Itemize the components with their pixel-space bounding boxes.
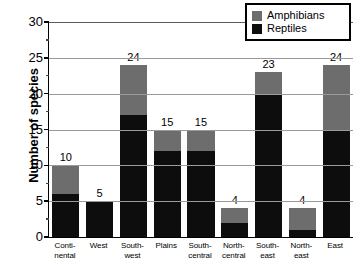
y-axis-minor-tick: [46, 147, 49, 148]
legend-label-amphibians: Amphibians: [267, 10, 324, 21]
x-axis-tick-label-line: North-: [284, 241, 318, 251]
plot-area: 105241515423424: [48, 22, 353, 238]
x-axis-tick-label: West: [82, 241, 116, 251]
y-axis-minor-tick: [46, 183, 49, 184]
bar-segment-reptiles: [289, 230, 316, 237]
bar-segment-amphibians: [221, 208, 248, 222]
legend-item-reptiles: Reptiles: [252, 22, 344, 35]
y-axis-tick: [44, 129, 49, 130]
legend-label-reptiles: Reptiles: [267, 23, 307, 34]
y-axis-minor-tick: [46, 39, 49, 40]
bar-value-label: 5: [97, 188, 103, 199]
y-axis-tick: [44, 57, 49, 58]
y-axis-tick-label: 30: [0, 17, 43, 27]
bar-value-label: 15: [195, 117, 207, 128]
bar-segment-reptiles: [86, 201, 113, 237]
y-axis-tick: [44, 236, 49, 237]
y-axis-minor-tick: [46, 75, 49, 76]
y-axis-tick-label: 10: [0, 160, 43, 170]
x-axis-tick-label-line: west: [116, 251, 150, 261]
x-axis-tick-label-line: central: [183, 251, 217, 261]
bar-segment-reptiles: [154, 151, 181, 237]
bar-segment-amphibians: [289, 208, 316, 230]
gridline: [49, 201, 353, 202]
x-axis-tick-label: North-east: [284, 241, 318, 261]
bar-segment-amphibians: [323, 65, 350, 130]
x-axis-tick-label-line: South-: [183, 241, 217, 251]
bar-segment-amphibians: [187, 130, 214, 152]
y-axis-tick: [44, 165, 49, 166]
x-axis-tick-label-line: North-: [217, 241, 251, 251]
bar-segment-amphibians: [154, 130, 181, 152]
x-axis-tick-label-line: nental: [48, 251, 82, 261]
x-axis-tick-label-line: West: [82, 241, 116, 251]
y-axis-tick-label: 25: [0, 53, 43, 63]
x-axis-tick-label: South-west: [116, 241, 150, 261]
x-axis-tick-label: South-east: [251, 241, 285, 261]
bar-value-label: 15: [161, 117, 173, 128]
x-axis-tick-label: Plains: [149, 241, 183, 251]
x-axis-tick-label-line: South-: [116, 241, 150, 251]
bar-segment-amphibians: [120, 65, 147, 115]
y-axis-minor-tick: [46, 111, 49, 112]
y-axis-tick-label: 15: [0, 125, 43, 135]
x-axis-tick-label: South-central: [183, 241, 217, 261]
gridline: [49, 58, 353, 59]
y-axis-tick-label: 20: [0, 89, 43, 99]
bar-segment-reptiles: [323, 130, 350, 238]
y-axis-minor-tick: [46, 218, 49, 219]
bar-segment-reptiles: [120, 115, 147, 237]
x-axis-labels: Conti-nentalWestSouth-westPlainsSouth-ce…: [48, 241, 352, 269]
x-axis-tick-label-line: East: [318, 241, 352, 251]
legend-swatch-amphibians-icon: [252, 11, 262, 21]
x-axis-tick-label: East: [318, 241, 352, 251]
bar-segment-reptiles: [221, 223, 248, 237]
bar-chart: Number of species 105241515423424 051015…: [0, 0, 357, 273]
legend-item-amphibians: Amphibians: [252, 9, 344, 22]
bar-segment-amphibians: [52, 165, 79, 194]
x-axis-tick-label-line: Plains: [149, 241, 183, 251]
bar-value-label: 23: [262, 59, 274, 70]
x-axis-tick-label: Conti-nental: [48, 241, 82, 261]
y-axis-tick-label: 0: [0, 232, 43, 242]
gridline: [49, 165, 353, 166]
x-axis-tick-label-line: central: [217, 251, 251, 261]
x-axis-tick-label-line: east: [284, 251, 318, 261]
y-axis-tick-label: 5: [0, 196, 43, 206]
bar-segment-amphibians: [255, 72, 282, 94]
chart-legend: Amphibians Reptiles: [245, 3, 351, 41]
y-axis-tick: [44, 93, 49, 94]
legend-swatch-reptiles-icon: [252, 24, 262, 34]
gridline: [49, 94, 353, 95]
x-axis-tick-label: North-central: [217, 241, 251, 261]
x-axis-tick-label-line: Conti-: [48, 241, 82, 251]
gridline: [49, 130, 353, 131]
y-axis-tick: [44, 200, 49, 201]
y-axis-tick: [44, 21, 49, 22]
x-axis-tick-label-line: east: [251, 251, 285, 261]
x-axis-tick-label-line: South-: [251, 241, 285, 251]
bar-value-label: 10: [60, 152, 72, 163]
bar-segment-reptiles: [187, 151, 214, 237]
